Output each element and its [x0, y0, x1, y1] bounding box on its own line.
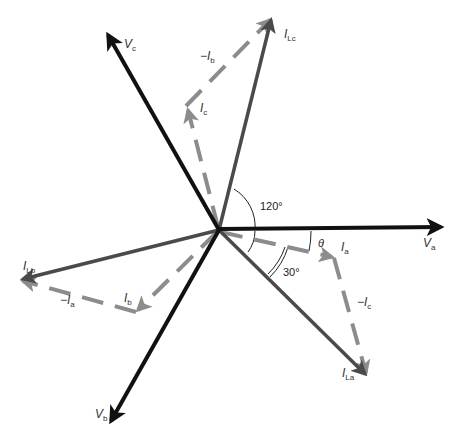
negated-currents [23, 20, 366, 373]
label-Va: Va [423, 236, 436, 252]
phasor-Ic [188, 110, 218, 227]
label-Ic: Ic [200, 101, 207, 117]
angle-120-arc [234, 189, 255, 230]
label-Vc: Vc [124, 37, 136, 53]
phasor-neg-Ic [334, 258, 366, 373]
label-ILc: ILc [284, 27, 296, 43]
label-ILa: ILa [342, 366, 355, 382]
phasor-Ib [138, 232, 217, 310]
label-angle-120: 120° [260, 200, 283, 212]
phasor-neg-Ib [186, 20, 270, 106]
phasor-Ia [221, 232, 332, 257]
label-Ia: Ia [341, 240, 349, 256]
label-ILb: ILb [23, 259, 36, 275]
voltages [108, 35, 441, 421]
phasor-neg-Ia [23, 281, 136, 312]
line-currents [23, 20, 365, 374]
label-neg-Ib: −Ib [200, 49, 215, 65]
phasor-ILb [23, 230, 219, 279]
angle-120-arc-lower [248, 231, 255, 252]
label-Ib: Ib [124, 291, 132, 307]
phasor-Vb [111, 230, 219, 421]
label-neg-Ia: −Ia [60, 293, 75, 309]
label-angle-30: 30° [283, 266, 300, 278]
phasor-Va [219, 227, 441, 229]
labels: Va Vb Vc ILa ILb ILc Ia Ib Ic −Ic −Ia −I… [23, 27, 436, 423]
label-angle-theta: θ [318, 237, 324, 249]
phasor-Vc [108, 35, 219, 230]
angle-theta-arc [309, 231, 311, 251]
label-neg-Ic: −Ic [357, 295, 371, 311]
phasor-diagram: Va Vb Vc ILa ILb ILc Ia Ib Ic −Ic −Ia −I… [0, 0, 464, 441]
label-Vb: Vb [95, 407, 108, 423]
